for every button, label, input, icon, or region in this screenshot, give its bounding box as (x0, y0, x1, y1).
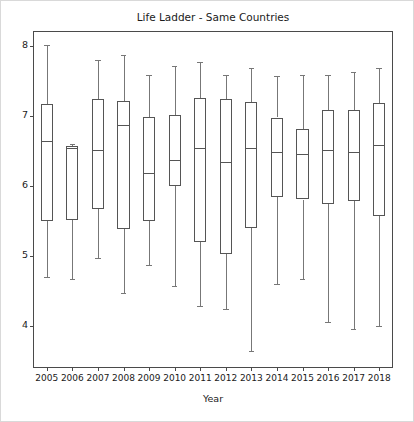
whisker-cap-lower (376, 326, 382, 327)
x-tick-mark (98, 367, 99, 371)
whisker-upper (277, 76, 278, 117)
x-tick-mark (72, 367, 73, 371)
y-tick-mark (30, 116, 34, 117)
whisker-upper (251, 68, 252, 102)
median-line (169, 160, 181, 161)
x-tick-label: 2016 (317, 373, 340, 383)
whisker-cap-lower (300, 279, 306, 280)
whisker-lower (124, 229, 125, 293)
y-tick-label: 5 (22, 249, 28, 260)
whisker-upper (149, 75, 150, 116)
median-line (348, 152, 360, 153)
x-tick-label: 2010 (163, 373, 186, 383)
whisker-upper (226, 75, 227, 98)
median-line (322, 150, 334, 151)
box-iqr (322, 110, 334, 203)
x-tick-mark (175, 367, 176, 371)
x-tick-mark (379, 367, 380, 371)
median-line (220, 162, 232, 163)
whisker-cap-upper (197, 62, 203, 63)
whisker-lower (354, 201, 355, 329)
y-tick-mark (30, 256, 34, 257)
x-tick-label: 2013 (240, 373, 263, 383)
whisker-cap-upper (249, 68, 255, 69)
whisker-cap-upper (44, 45, 50, 46)
x-tick-label: 2009 (138, 373, 161, 383)
box-iqr (194, 98, 206, 242)
whisker-lower (226, 254, 227, 309)
x-tick-label: 2014 (265, 373, 288, 383)
x-tick-mark (251, 367, 252, 371)
y-tick-label: 6 (22, 179, 28, 190)
box-iqr (143, 117, 155, 221)
whisker-cap-lower (274, 284, 280, 285)
median-line (66, 148, 78, 149)
y-tick-mark (30, 46, 34, 47)
whisker-cap-upper (70, 144, 76, 145)
whisker-upper (200, 62, 201, 98)
whisker-cap-upper (95, 60, 101, 61)
x-tick-label: 2015 (291, 373, 314, 383)
x-tick-label: 2007 (86, 373, 109, 383)
box-iqr (220, 99, 232, 255)
whisker-cap-lower (172, 286, 178, 287)
x-tick-mark (200, 367, 201, 371)
whisker-cap-upper (351, 72, 357, 73)
median-line (271, 152, 283, 153)
plot-area: 45678 2005200620072008200920102011201220… (33, 31, 393, 368)
whisker-lower (200, 242, 201, 306)
whisker-lower (149, 221, 150, 265)
y-tick-label: 4 (22, 319, 28, 330)
whisker-upper (98, 60, 99, 99)
whisker-lower (175, 186, 176, 286)
whisker-upper (175, 66, 176, 116)
x-tick-label: 2018 (368, 373, 391, 383)
x-tick-mark (303, 367, 304, 371)
x-tick-mark (328, 367, 329, 371)
x-tick-mark (149, 367, 150, 371)
x-tick-mark (354, 367, 355, 371)
y-tick-label: 8 (22, 39, 28, 50)
whisker-cap-lower (95, 258, 101, 259)
whisker-cap-lower (121, 293, 127, 294)
x-tick-mark (226, 367, 227, 371)
whisker-lower (251, 228, 252, 351)
whisker-upper (47, 45, 48, 104)
median-line (296, 154, 308, 155)
whisker-cap-lower (197, 306, 203, 307)
whisker-cap-lower (44, 277, 50, 278)
whisker-upper (328, 75, 329, 110)
whisker-cap-lower (70, 279, 76, 280)
box-iqr (271, 118, 283, 198)
whisker-lower (303, 200, 304, 280)
box-iqr (348, 110, 360, 200)
whisker-cap-upper (376, 68, 382, 69)
whisker-cap-lower (223, 309, 229, 310)
x-tick-mark (124, 367, 125, 371)
whisker-lower (72, 220, 73, 280)
x-tick-label: 2008 (112, 373, 135, 383)
whisker-lower (277, 197, 278, 284)
median-line (117, 125, 129, 126)
whisker-upper (303, 75, 304, 129)
whisker-cap-upper (146, 75, 152, 76)
whisker-lower (98, 209, 99, 257)
whisker-cap-upper (172, 66, 178, 67)
median-line (245, 148, 257, 149)
median-line (194, 148, 206, 149)
y-tick-mark (30, 326, 34, 327)
x-tick-label: 2005 (35, 373, 58, 383)
box-iqr (373, 103, 385, 215)
whisker-upper (379, 68, 380, 104)
box-iqr (296, 129, 308, 199)
whisker-lower (47, 221, 48, 277)
x-tick-mark (47, 367, 48, 371)
whisker-lower (379, 216, 380, 326)
x-tick-label: 2006 (61, 373, 84, 383)
chart-title: Life Ladder - Same Countries (33, 11, 393, 23)
x-tick-label: 2011 (189, 373, 212, 383)
median-line (41, 141, 53, 142)
y-tick-label: 7 (22, 109, 28, 120)
whisker-cap-upper (274, 76, 280, 77)
box-iqr (169, 115, 181, 186)
